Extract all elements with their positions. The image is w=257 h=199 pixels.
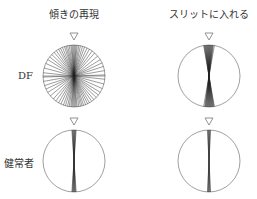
panel-0-0	[43, 33, 105, 107]
panel-0-1	[178, 33, 240, 107]
down-triangle-marker-icon	[70, 118, 78, 125]
down-triangle-marker-icon	[70, 33, 78, 40]
down-triangle-marker-icon	[205, 33, 213, 40]
panel-1-1	[178, 118, 240, 192]
panel-1-0	[43, 118, 105, 192]
down-triangle-marker-icon	[205, 118, 213, 125]
orientation-diagram	[0, 0, 257, 199]
